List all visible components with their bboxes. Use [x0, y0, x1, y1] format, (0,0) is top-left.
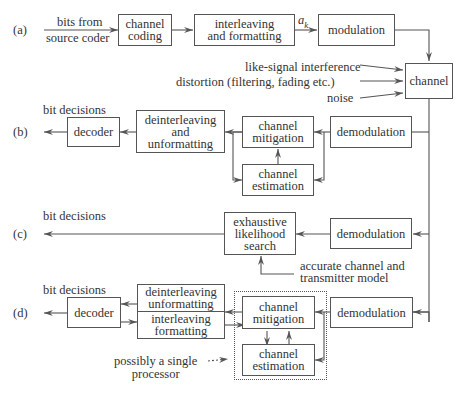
demodulation-box-b: demodulation: [330, 116, 412, 148]
channel-estimation-box-d: channelestimation: [242, 344, 315, 376]
bit-decisions-b: bit decisions: [43, 104, 106, 116]
channel-box: channel: [405, 63, 453, 99]
row-label-a: (a): [13, 24, 27, 36]
symbol-ak: ak: [298, 14, 308, 31]
demodulation-box-d: demodulation: [330, 297, 413, 328]
bits-from-label: bits from: [57, 16, 102, 28]
modulation-box: modulation: [318, 14, 395, 46]
decoder-box-d: decoder: [67, 297, 121, 328]
row-label-b: (b): [13, 126, 28, 138]
bit-decisions-d: bit decisions: [43, 284, 106, 296]
interleaving-formatting-box: interleavingand formatting: [194, 14, 295, 46]
demodulation-box-c: demodulation: [330, 218, 412, 249]
channel-estimation-box-b: channelestimation: [242, 164, 314, 196]
row-label-c: (c): [13, 228, 27, 240]
distortion-label: distortion (filtering, fading etc.): [176, 76, 335, 88]
interleaving-box-d: interleavingformatting: [137, 311, 225, 339]
processor-note: possibly a singleprocessor: [114, 355, 197, 381]
decoder-box-b: decoder: [67, 117, 120, 147]
likelihood-search-box: exhaustivelikelihoodsearch: [224, 212, 296, 255]
deinterleaving-box-b: deinterleavingandunformatting: [136, 110, 225, 153]
channel-coding-box: channelcoding: [118, 14, 172, 46]
channel-model-note: accurate channel andtransmitter model: [300, 260, 405, 284]
noise-label: noise: [327, 92, 353, 104]
channel-mitigation-box-d: channelmitigation: [242, 296, 315, 329]
interference-label: like-signal interference: [245, 61, 361, 73]
source-coder-label: source coder: [46, 32, 110, 44]
deinterleaving-box-d: deinterleavingunformatting: [137, 284, 225, 312]
row-label-d: (d): [13, 307, 28, 319]
bit-decisions-c: bit decisions: [43, 210, 106, 222]
channel-mitigation-box-b: channelmitigation: [242, 116, 314, 148]
